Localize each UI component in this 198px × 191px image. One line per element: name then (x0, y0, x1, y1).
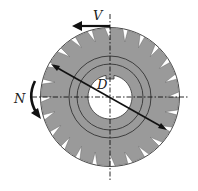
rotation-arrowhead (31, 108, 41, 119)
velocity-arrowhead (72, 21, 82, 31)
rotation-arrow-curve (31, 81, 36, 112)
rotation-label: N (14, 92, 25, 105)
milling-cutter-diagram (0, 0, 198, 191)
diameter-label: D (97, 78, 107, 91)
velocity-label: V (93, 9, 102, 22)
